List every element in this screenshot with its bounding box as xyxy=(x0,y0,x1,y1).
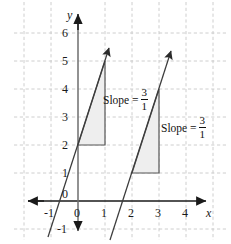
slope-label-1-fraction: 3 1 xyxy=(141,87,149,112)
x-axis-label: x xyxy=(206,206,211,221)
slope-label-1: Slope = 3 1 xyxy=(103,87,148,112)
slope-label-2-fraction: 3 1 xyxy=(199,115,207,140)
slope-label-1-text: Slope = xyxy=(103,94,139,106)
coordinate-graph-figure: 6 5 4 3 2 1 0 -1 -1 0 1 2 3 4 y x Slope … xyxy=(0,0,231,244)
y-axis-label: y xyxy=(67,8,72,23)
graph-line-2 xyxy=(110,51,171,240)
slope-label-1-denominator: 1 xyxy=(141,101,149,112)
y-tick-6: 6 xyxy=(62,27,68,39)
y-tick-1: 1 xyxy=(62,167,68,179)
slope-label-2: Slope = 3 1 xyxy=(161,115,206,140)
x-tick-0: 0 xyxy=(74,207,80,219)
y-tick-0: 0 xyxy=(62,188,68,200)
y-tick-2: 2 xyxy=(62,139,68,151)
slope-label-1-numerator: 3 xyxy=(141,87,149,98)
x-tick-3: 3 xyxy=(155,207,161,219)
x-tick-neg1: -1 xyxy=(44,207,54,219)
y-tick-4: 4 xyxy=(62,83,68,95)
x-tick-1: 1 xyxy=(101,207,107,219)
y-tick-5: 5 xyxy=(62,55,68,67)
slope-label-2-denominator: 1 xyxy=(199,129,207,140)
y-tick-3: 3 xyxy=(62,111,68,123)
slope-label-2-numerator: 3 xyxy=(199,115,207,126)
x-tick-4: 4 xyxy=(182,207,188,219)
y-tick-neg1: -1 xyxy=(57,223,67,235)
x-tick-2: 2 xyxy=(128,207,134,219)
slope-label-2-text: Slope = xyxy=(161,122,197,134)
